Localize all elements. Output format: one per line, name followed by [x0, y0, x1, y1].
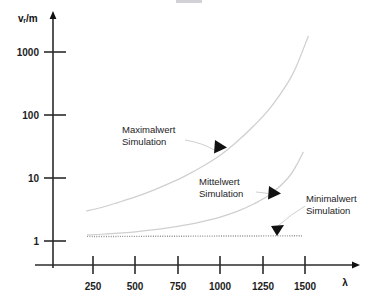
y-axis-arrowhead [50, 11, 57, 19]
annotation-mittelwert-line2: Simulation [199, 188, 243, 199]
x-axis-title: λ [342, 277, 348, 288]
leader-line-maximalwert [185, 140, 214, 150]
x-axis-arrowhead [352, 262, 360, 269]
annotation-minimalwert-line2: Simulation [306, 205, 350, 216]
annotation-minimalwert-line1: Minimalwert [306, 193, 357, 204]
annotation-maximalwert-line2: Simulation [122, 136, 166, 147]
x-ticklabel-750: 750 [170, 281, 187, 292]
y-ticklabel-10: 10 [28, 173, 40, 184]
x-ticklabel-1250: 1250 [252, 281, 275, 292]
y-ticklabel-100: 100 [22, 110, 39, 121]
y-ticklabel-1: 1 [33, 236, 39, 247]
annotation-text-group: Maximalwert Simulation Mittelwert Simula… [122, 124, 357, 216]
x-ticklabel-1000: 1000 [209, 281, 232, 292]
x-ticklabel-250: 250 [85, 281, 102, 292]
series-group [86, 36, 308, 237]
arrowhead-minimalwert [271, 225, 284, 236]
y-axis-group: 1000 100 10 1 vᵣ/m [17, 11, 66, 268]
x-ticklabel-1500: 1500 [294, 281, 317, 292]
chart-canvas: 1000 100 10 1 vᵣ/m 250 500 750 1000 1250… [0, 0, 377, 307]
x-ticklabel-500: 500 [127, 281, 144, 292]
y-axis-title: vᵣ/m [18, 13, 38, 24]
series-curve-minimalwert [87, 236, 303, 237]
chart-figure: 1000 100 10 1 vᵣ/m 250 500 750 1000 1250… [0, 0, 377, 307]
x-axis-group: 250 500 750 1000 1250 1500 λ [35, 256, 360, 292]
annotation-mittelwert-line1: Mittelwert [199, 176, 240, 187]
cropped-title-fragment [176, 0, 202, 3]
y-ticklabel-1000: 1000 [17, 47, 40, 58]
leader-line-minimalwert [278, 206, 305, 226]
series-curve-maximalwert [86, 36, 308, 211]
annotation-maximalwert-line1: Maximalwert [122, 124, 176, 135]
